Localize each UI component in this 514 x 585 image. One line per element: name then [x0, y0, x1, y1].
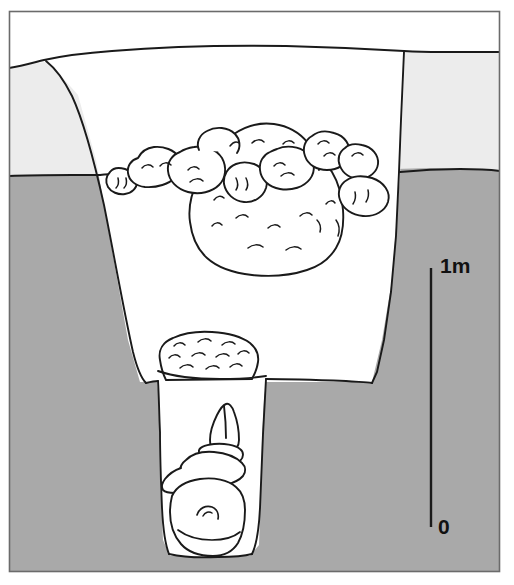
boulder-right-mid: [339, 144, 378, 179]
scale-top-label: 1m: [440, 254, 470, 277]
boulder-top-left-wedge: [198, 128, 240, 153]
basal-stone: [170, 478, 245, 556]
scale-bottom-label: 0: [438, 515, 450, 538]
section-drawing-figure: 1m 0: [0, 0, 514, 585]
boulder-left-mid: [168, 146, 225, 193]
soil-horizon-boundary-left: [9, 175, 100, 176]
boulder-right-lower: [339, 176, 389, 216]
section-drawing-canvas: 1m 0: [0, 0, 514, 585]
